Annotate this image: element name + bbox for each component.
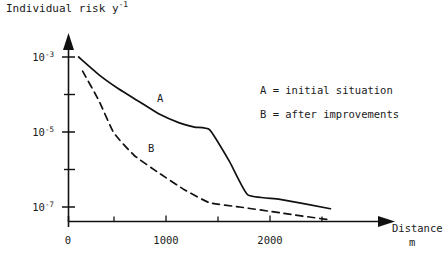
chart-figure: Individual risk y-1 10-3 10-5 10-7 0 100… bbox=[0, 0, 448, 257]
x-axis-arrowhead bbox=[378, 216, 395, 227]
series-line-a bbox=[79, 57, 331, 209]
y-axis-arrowhead bbox=[63, 33, 74, 50]
plot-area bbox=[0, 0, 448, 257]
series-line-b bbox=[83, 71, 331, 220]
